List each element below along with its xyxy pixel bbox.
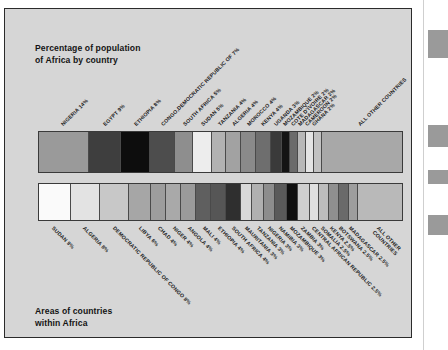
bar-segment[interactable] xyxy=(129,184,151,220)
bar-segment[interactable] xyxy=(310,184,320,220)
bar-segment[interactable] xyxy=(241,132,256,172)
bar-segment-label: GHANA 2% xyxy=(311,102,336,127)
bar-segment-label: ZAMBIA 3% xyxy=(300,225,326,251)
bar-segment-label: NAMIBIA 3% xyxy=(278,225,306,253)
top-chart-caption: Percentage of population of Africa by co… xyxy=(35,43,141,66)
bar-segment[interactable] xyxy=(121,132,150,172)
area-stacked-bar[interactable] xyxy=(38,183,403,221)
strip-block xyxy=(428,125,448,147)
bar-segment-label: MOZAMBIQUE 3% xyxy=(289,225,327,263)
bar-segment-label: ALL OTHER COUNTRIES xyxy=(371,225,402,256)
bar-segment[interactable] xyxy=(282,132,290,172)
bar-segment[interactable] xyxy=(150,132,175,172)
bar-segment[interactable] xyxy=(290,132,298,172)
bar-segment[interactable] xyxy=(256,132,271,172)
bar-segment[interactable] xyxy=(339,184,349,220)
bar-segment-label: ETHIOPIA 8% xyxy=(132,98,161,127)
bar-segment[interactable] xyxy=(151,184,166,220)
bar-segment-label: EGYPT 9% xyxy=(101,103,125,127)
bar-segment-label: SOMALIA 2.5% xyxy=(320,225,352,257)
bar-segment-label: CONGO,DEMOCRATIC REPUBLIC OF 7% xyxy=(160,46,241,127)
bar-segment[interactable] xyxy=(314,132,322,172)
bar-segment-label: MALI 4% xyxy=(201,225,222,246)
bar-segment[interactable] xyxy=(322,132,402,172)
bar-segment[interactable] xyxy=(252,184,263,220)
bar-segment[interactable] xyxy=(175,132,193,172)
strip-block xyxy=(428,215,448,235)
bar-segment-label: NIGERIA 14% xyxy=(59,98,88,127)
bar-segment[interactable] xyxy=(329,184,339,220)
bar-segment-label: COTE D'IVOIRE 2% xyxy=(289,87,329,127)
bottom-chart-caption: Areas of countries within Africa xyxy=(35,306,112,329)
bar-segment-label: ALGERIA 8% xyxy=(82,225,110,253)
strip-block xyxy=(428,170,448,184)
bar-segment-label: CHAD 4% xyxy=(157,225,179,247)
bar-segment[interactable] xyxy=(89,132,121,172)
bar-segment-label: KENYA 4% xyxy=(260,103,284,127)
bar-segment[interactable] xyxy=(226,132,241,172)
bar-segment-label: MADAGASCAR 2% xyxy=(297,87,337,127)
figure-page: Percentage of population of Africa by co… xyxy=(0,0,448,350)
bar-segment[interactable] xyxy=(166,184,181,220)
bar-segment-label: NIGER 4% xyxy=(172,225,195,248)
bar-segment-label: CENTRAL AFRICAN REPUBLIC 2.5% xyxy=(310,225,383,298)
bar-segment-label: KENYA 2.5% xyxy=(329,225,357,253)
bar-segment-label: LIBYA 6% xyxy=(138,225,160,247)
bar-segment[interactable] xyxy=(212,132,227,172)
bar-segment-label: SUDAN 5% xyxy=(200,102,225,127)
bar-segment[interactable] xyxy=(39,132,89,172)
bar-segment[interactable] xyxy=(306,132,314,172)
bar-segment[interactable] xyxy=(358,184,402,220)
bar-segment[interactable] xyxy=(226,184,241,220)
bar-segment-label: ETHIOPIA 4% xyxy=(216,225,245,254)
bar-segment[interactable] xyxy=(298,184,309,220)
bar-segment[interactable] xyxy=(271,132,282,172)
bar-segment-label: MAURITANIA 3% xyxy=(244,225,279,260)
bar-segment-label: NIGERIA 3% xyxy=(267,225,294,252)
strip-block xyxy=(428,30,448,58)
chart-figure-frame: Percentage of population of Africa by co… xyxy=(4,8,412,338)
bar-segment[interactable] xyxy=(298,132,306,172)
bar-segment-label: MOROCCO 4% xyxy=(245,95,277,127)
bar-segment-label: TANZANIA 4% xyxy=(216,96,247,127)
bar-segment-label: DEMOCRATIC REPUBLIC OF CONGO 8% xyxy=(112,225,193,306)
bar-segment-label: SUDAN 9% xyxy=(51,225,76,250)
page-gutter-rule xyxy=(423,0,424,350)
bar-segment[interactable] xyxy=(39,184,71,220)
bar-segment-label: SOUTH AFRICA 5% xyxy=(182,87,222,127)
bar-segment-label: UGANDA 3% xyxy=(273,99,301,127)
bar-segment[interactable] xyxy=(196,184,211,220)
population-stacked-bar[interactable] xyxy=(38,131,403,173)
adjacent-page-strip xyxy=(420,0,448,350)
bar-segment-label: TANZANIA 3% xyxy=(255,225,286,256)
bar-segment[interactable] xyxy=(100,184,129,220)
bar-segment[interactable] xyxy=(71,184,100,220)
bar-segment-label: BOTSWANA 2.5% xyxy=(338,225,375,262)
bar-segment[interactable] xyxy=(211,184,226,220)
bar-segment-label: CAMEROON 2% xyxy=(304,93,338,127)
bar-segment-label: SOUTH AFRICA 4% xyxy=(231,225,271,265)
bar-segment[interactable] xyxy=(349,184,359,220)
bar-segment-label: ANGOLA 4% xyxy=(186,225,214,253)
bar-segment[interactable] xyxy=(275,184,286,220)
bar-segment[interactable] xyxy=(287,184,298,220)
bar-segment[interactable] xyxy=(241,184,252,220)
bar-segment[interactable] xyxy=(319,184,329,220)
bar-segment-label: MOZAMBIQUE 2% xyxy=(282,89,320,127)
bar-segment-label: MADAGASCAR 2.5% xyxy=(348,225,391,268)
bar-segment-label: ALGERIA 4% xyxy=(231,99,259,127)
bar-segment[interactable] xyxy=(264,184,275,220)
bar-segment[interactable] xyxy=(181,184,196,220)
bar-segment-label: ALL OTHER COUNTRIES xyxy=(357,76,408,127)
bar-segment[interactable] xyxy=(193,132,211,172)
